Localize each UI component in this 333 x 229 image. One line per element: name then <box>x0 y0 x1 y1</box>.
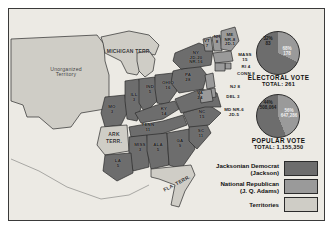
label-delaware: DEL 3 <box>221 95 245 100</box>
label-kentucky: KY14 <box>154 107 174 116</box>
label-rhode-island: RI 4 <box>235 65 257 70</box>
label-missouri: MO3 <box>101 105 123 114</box>
label-new-york: NY JD-20 NR-16 <box>183 51 209 65</box>
state-connecticut <box>215 63 225 71</box>
election-map-figure: 1828 <box>0 0 333 229</box>
label-north-carolina: NC15 <box>193 110 211 119</box>
label-massachusetts: MASS15 <box>233 53 257 62</box>
label-alabama: ALA5 <box>149 143 167 152</box>
state-new-jersey <box>205 73 215 89</box>
label-maryland: MD NR-6 JD-5 <box>217 108 251 117</box>
label-tennessee: TENN11 <box>135 123 161 132</box>
label-ohio: OHIO16 <box>157 81 179 90</box>
electoral-jackson-slice-label: 68% 178 <box>277 47 297 57</box>
label-virginia: VA24 <box>191 91 209 100</box>
electoral-vote-caption: ELECTORAL VOTE TOTAL: 261 <box>231 74 324 87</box>
label-georgia: GA9 <box>171 139 189 148</box>
label-unorganized-territory: Unorganized Territory <box>31 67 101 78</box>
legend-label-national-republican: National Republican (J. Q. Adams) <box>220 180 284 194</box>
legend-item-national-republican: National Republican (J. Q. Adams) <box>172 179 318 194</box>
map-frame: 1828 <box>8 8 325 221</box>
state-rhode-island <box>225 63 231 69</box>
legend-item-territories: Territories <box>172 197 318 212</box>
legend-label-jacksonian-democrat: Jacksonian Democrat (Jackson) <box>216 162 284 176</box>
label-louisiana: LA5 <box>109 159 127 168</box>
legend-label-territories: Territories <box>249 201 284 208</box>
popular-jackson-slice-label: 56% 647,286 <box>277 109 301 119</box>
legend-swatch-national-republican <box>284 179 318 194</box>
label-michigan-territory: MICHIGAN TERR. <box>101 49 157 54</box>
label-illinois: ILL3 <box>124 93 144 102</box>
state-massachusetts <box>213 51 233 63</box>
map-plate: 1828 <box>9 9 324 220</box>
label-pennsylvania: PA28 <box>179 73 197 82</box>
label-mississippi: MISS3 <box>129 143 151 152</box>
popular-vote-caption: POPULAR VOTE TOTAL: 1,155,350 <box>231 137 324 150</box>
legend-swatch-jacksonian-democrat <box>284 161 318 176</box>
label-south-carolina: SC11 <box>192 129 210 138</box>
label-arkansas-territory: ARKTERR. <box>101 131 127 145</box>
legend-swatch-territories <box>284 197 318 212</box>
legend: Jacksonian Democrat (Jackson) National R… <box>172 161 318 215</box>
label-maine: ME NR-8 JD-1 <box>221 33 239 47</box>
legend-item-jacksonian-democrat: Jacksonian Democrat (Jackson) <box>172 161 318 176</box>
electoral-adams-slice-label: 32% 83 <box>258 37 278 47</box>
